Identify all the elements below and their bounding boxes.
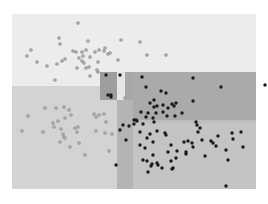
data-point-class-dark — [141, 158, 144, 161]
data-point-class-light — [102, 112, 105, 115]
data-point-class-dark — [231, 137, 234, 140]
data-point-class-dark — [166, 106, 169, 109]
data-point-class-light — [75, 66, 78, 69]
data-point-class-light — [77, 141, 80, 144]
data-point-class-dark — [159, 89, 162, 92]
data-point-class-light — [87, 65, 90, 68]
data-point-class-dark — [104, 73, 107, 76]
data-point-class-dark — [155, 129, 158, 132]
data-point-class-light — [60, 59, 63, 62]
data-point-class-dark — [195, 123, 198, 126]
data-point-class-light — [51, 121, 54, 124]
data-point-class-light — [58, 140, 61, 143]
data-point-class-light — [108, 51, 111, 54]
data-point-class-dark — [156, 163, 159, 166]
data-point-class-light — [35, 60, 38, 63]
data-point-class-dark — [118, 73, 121, 76]
decision-regions — [12, 14, 256, 189]
data-point-class-light — [86, 39, 89, 42]
data-point-class-dark — [155, 104, 158, 107]
data-point-class-light — [71, 49, 74, 52]
data-point-class-light — [119, 38, 122, 41]
data-point-class-dark — [172, 104, 175, 107]
data-point-class-dark — [180, 111, 183, 114]
data-point-class-dark — [184, 152, 187, 155]
data-point-class-light — [63, 57, 66, 60]
data-point-class-light — [84, 66, 87, 69]
data-point-class-light — [76, 125, 79, 128]
data-point-class-dark — [169, 159, 172, 162]
data-point-class-light — [92, 112, 95, 115]
data-point-class-light — [88, 74, 91, 77]
data-point-class-light — [63, 136, 66, 139]
data-point-class-dark — [164, 133, 167, 136]
data-point-class-light — [102, 49, 105, 52]
data-point-class-light — [58, 42, 61, 45]
data-point-class-dark — [219, 85, 222, 88]
decision-boundary-plot — [0, 0, 268, 204]
data-point-class-dark — [182, 140, 185, 143]
data-point-class-light — [164, 53, 167, 56]
data-point-class-dark — [138, 143, 141, 146]
data-point-class-light — [68, 145, 71, 148]
data-point-class-dark — [173, 114, 176, 117]
data-point-class-dark — [118, 128, 121, 131]
data-point-class-dark — [151, 153, 154, 156]
data-point-class-dark — [146, 111, 149, 114]
data-point-class-light — [52, 125, 55, 128]
data-point-class-light — [74, 50, 77, 53]
data-point-class-light — [57, 36, 60, 39]
data-point-class-light — [54, 106, 57, 109]
data-point-class-light — [80, 50, 83, 53]
data-point-class-light — [29, 48, 32, 51]
data-point-class-light — [84, 48, 87, 51]
data-point-class-dark — [152, 120, 155, 123]
data-point-class-light — [94, 129, 97, 132]
data-point-class-dark — [141, 122, 144, 125]
data-point-class-dark — [145, 159, 148, 162]
data-point-class-dark — [224, 184, 227, 187]
data-point-class-light — [88, 55, 91, 58]
data-point-class-dark — [263, 83, 266, 86]
data-point-class-light — [55, 62, 58, 65]
data-point-class-dark — [127, 124, 130, 127]
data-point-class-light — [145, 53, 148, 56]
data-point-class-light — [97, 113, 100, 116]
data-point-class-light — [56, 119, 59, 122]
data-point-class-dark — [200, 138, 203, 141]
data-point-class-dark — [114, 163, 117, 166]
data-point-class-dark — [196, 130, 199, 133]
data-point-class-light — [77, 56, 80, 59]
data-point-class-light — [69, 113, 72, 116]
data-point-class-light — [103, 46, 106, 49]
data-point-class-dark — [132, 122, 135, 125]
data-point-class-dark — [148, 101, 151, 104]
data-point-class-dark — [170, 167, 173, 170]
data-point-class-light — [138, 40, 141, 43]
data-point-class-dark — [106, 93, 109, 96]
data-point-class-dark — [150, 162, 153, 165]
data-point-class-dark — [143, 146, 146, 149]
data-point-class-dark — [186, 139, 189, 142]
data-point-class-dark — [175, 149, 178, 152]
data-point-class-light — [41, 130, 44, 133]
data-point-class-light — [82, 61, 85, 64]
data-point-class-dark — [239, 130, 242, 133]
data-point-class-dark — [214, 144, 217, 147]
data-point-class-dark — [140, 75, 143, 78]
data-point-class-dark — [109, 95, 112, 98]
data-point-class-light — [63, 116, 66, 119]
data-point-class-dark — [191, 145, 194, 148]
data-point-class-dark — [139, 110, 142, 113]
data-point-class-light — [96, 60, 99, 63]
data-point-class-dark — [169, 143, 172, 146]
data-point-class-dark — [164, 91, 167, 94]
data-point-class-light — [61, 132, 64, 135]
data-point-class-light — [59, 127, 62, 130]
data-point-class-dark — [194, 120, 197, 123]
data-point-class-dark — [216, 134, 219, 137]
data-point-class-light — [110, 132, 113, 135]
region-dark — [117, 100, 133, 189]
data-point-class-light — [67, 108, 70, 111]
data-point-class-dark — [148, 132, 151, 135]
